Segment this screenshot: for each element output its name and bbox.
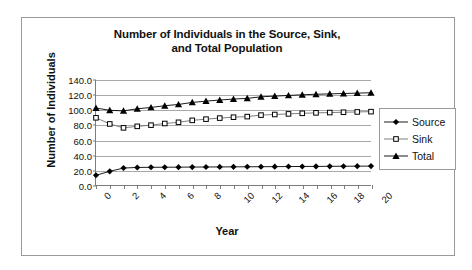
chart-title: Number of Individuals in the Source, Sin…: [62, 27, 392, 55]
data-point-marker: [393, 118, 399, 124]
data-point-marker: [341, 110, 346, 115]
data-point-marker: [107, 122, 112, 127]
x-axis-tick-label: 8: [212, 190, 224, 202]
x-axis-tick-mark: [344, 185, 345, 189]
filled-diamond-icon: [383, 115, 409, 129]
data-point-marker: [120, 165, 126, 171]
y-axis-tick-label: 0.0: [52, 181, 92, 192]
data-point-marker: [189, 164, 195, 170]
data-point-marker: [204, 117, 209, 122]
x-axis-tick-mark: [206, 185, 207, 189]
x-axis-tick-mark: [193, 185, 194, 189]
chart-title-line-2: and Total Population: [62, 41, 392, 55]
data-point-marker: [368, 163, 374, 169]
x-axis-tick-mark: [110, 185, 111, 189]
data-point-marker: [93, 172, 99, 178]
x-axis-tick-mark: [165, 185, 166, 189]
data-point-marker: [162, 164, 168, 170]
x-axis-tick-label: 4: [157, 190, 169, 202]
x-axis-tick-mark: [289, 185, 290, 189]
data-point-marker: [300, 111, 305, 116]
filled-triangle-icon: [383, 149, 409, 163]
series-source: [93, 163, 374, 178]
legend-label: Sink: [412, 133, 432, 145]
legend-item-total[interactable]: Total: [383, 147, 452, 164]
data-point-marker: [231, 115, 236, 120]
y-axis-tick-label: 40.0: [52, 150, 92, 161]
data-point-marker: [148, 164, 154, 170]
data-point-marker: [175, 164, 181, 170]
legend-item-sink[interactable]: Sink: [383, 130, 452, 147]
data-point-marker: [369, 109, 374, 114]
x-axis-tick-label: 20: [379, 190, 394, 205]
data-point-marker: [340, 163, 346, 169]
chart-frame: Number of Individuals in the Source, Sin…: [21, 17, 455, 256]
data-point-marker: [313, 163, 319, 169]
x-axis-tick-label: 14: [296, 190, 311, 205]
x-axis-tick-mark: [234, 185, 235, 189]
data-point-marker: [149, 123, 154, 128]
chart-legend: SourceSinkTotal: [379, 108, 456, 170]
data-point-marker: [394, 136, 399, 141]
x-axis-tick-mark: [248, 185, 249, 189]
data-point-marker: [258, 164, 264, 170]
data-point-marker: [272, 112, 277, 117]
x-axis-tick-mark: [220, 185, 221, 189]
chart-title-line-1: Number of Individuals in the Source, Sin…: [62, 27, 392, 41]
y-axis-tick-label: 20.0: [52, 165, 92, 176]
x-axis-tick-label: 16: [324, 190, 339, 205]
x-axis-tick-mark: [372, 185, 373, 189]
y-axis-tick-label: 120.0: [52, 90, 92, 101]
data-point-marker: [94, 116, 99, 121]
y-axis-tick-label: 80.0: [52, 120, 92, 131]
data-point-marker: [272, 164, 278, 170]
legend-label: Total: [412, 150, 434, 162]
x-axis-tick-label: 18: [351, 190, 366, 205]
series-sink: [94, 109, 374, 130]
x-axis-tick-mark: [331, 185, 332, 189]
data-point-marker: [121, 126, 126, 131]
y-axis-tick-label: 60.0: [52, 135, 92, 146]
data-point-marker: [327, 163, 333, 169]
data-point-marker: [134, 164, 140, 170]
data-point-marker: [259, 113, 264, 118]
data-point-marker: [190, 118, 195, 123]
x-axis-tick-mark: [303, 185, 304, 189]
data-point-marker: [245, 114, 250, 119]
x-axis-tick-label: 6: [184, 190, 196, 202]
x-axis-tick-label: 0: [102, 190, 114, 202]
series-plot: [96, 80, 371, 185]
data-point-marker: [299, 163, 305, 169]
data-point-marker: [327, 110, 332, 115]
x-axis-tick-mark: [275, 185, 276, 189]
data-point-marker: [135, 124, 140, 129]
data-point-marker: [230, 164, 236, 170]
x-axis-tick-label: 12: [269, 190, 284, 205]
data-point-marker: [176, 120, 181, 125]
data-point-marker: [203, 164, 209, 170]
x-axis-tick-mark: [179, 185, 180, 189]
data-point-marker: [92, 104, 99, 110]
data-point-marker: [107, 168, 113, 174]
x-axis-tick-mark: [124, 185, 125, 189]
x-axis-tick-mark: [137, 185, 138, 189]
x-axis-title: Year: [82, 225, 372, 237]
y-axis-tick-label: 100.0: [52, 105, 92, 116]
data-point-marker: [217, 116, 222, 121]
data-point-marker: [355, 110, 360, 115]
open-square-icon: [383, 132, 409, 146]
legend-item-source[interactable]: Source: [383, 113, 452, 130]
legend-label: Source: [412, 116, 445, 128]
x-axis-tick-mark: [317, 185, 318, 189]
x-axis-tick-label: 10: [241, 190, 256, 205]
x-axis-tick-mark: [96, 185, 97, 189]
x-axis-tick-mark: [262, 185, 263, 189]
y-axis-tick-label: 140.0: [52, 75, 92, 86]
plot-area: 140.0120.0100.080.060.040.020.00.0 02468…: [95, 80, 371, 186]
data-point-marker: [354, 163, 360, 169]
data-point-marker: [314, 111, 319, 116]
x-axis-tick-mark: [151, 185, 152, 189]
x-axis-tick-label: 2: [129, 190, 141, 202]
x-axis-tick-mark: [358, 185, 359, 189]
data-point-marker: [162, 121, 167, 126]
